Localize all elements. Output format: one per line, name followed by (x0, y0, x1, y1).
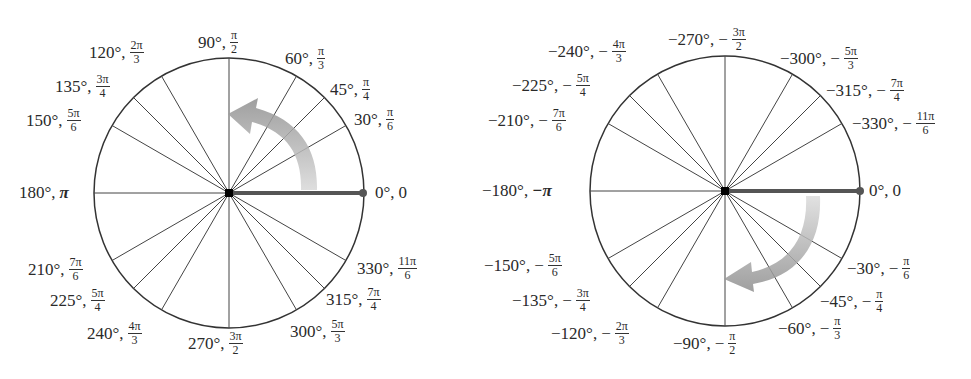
label-neg-180-deg: −180°,−π (482, 182, 552, 199)
label-225-deg: 225°, 5π4 (50, 287, 105, 313)
label-neg-315-deg: −315°,− 7π4 (826, 77, 904, 103)
right-center-dot (721, 187, 729, 195)
label-neg-210-deg: −210°,− 7π6 (488, 107, 566, 133)
label-neg-225-deg: −225°,− 5π4 (512, 72, 590, 98)
label-neg-0-deg: 0°,0 (869, 182, 901, 199)
label-neg-90-deg: −90°,− π2 (673, 330, 736, 356)
label-neg-120-deg: −120°,− 2π3 (551, 320, 629, 346)
label-neg-135-deg: −135°,− 3π4 (512, 287, 590, 313)
label-135-deg: 135°, 3π4 (55, 73, 110, 99)
label-30-deg: 30°, π6 (354, 106, 394, 132)
counterclockwise-arrow-icon (228, 98, 317, 190)
label-315-deg: 315°, 7π4 (326, 286, 381, 312)
label-0-deg: 0°,0 (375, 184, 407, 201)
label-neg-30-deg: −30°,− π6 (847, 255, 910, 281)
clockwise-arrow-icon (724, 196, 820, 292)
left-center-dot (225, 189, 233, 197)
label-45-deg: 45°, π4 (330, 76, 370, 102)
label-neg-270-deg: −270°,− 3π2 (668, 26, 746, 52)
label-180-deg: 180°,π (19, 184, 69, 201)
left-initial-point (359, 189, 367, 197)
label-neg-45-deg: −45°,− π4 (820, 288, 883, 314)
right-unit-circle (590, 56, 864, 326)
label-270-deg: 270°, 3π2 (188, 330, 243, 356)
right-initial-point (856, 187, 864, 195)
label-neg-300-deg: −300°,− 5π3 (780, 45, 858, 71)
label-neg-330-deg: −330°,− 11π6 (852, 110, 935, 136)
label-neg-150-deg: −150°,− 5π6 (484, 252, 562, 278)
label-330-deg: 330°, 11π6 (357, 255, 417, 281)
label-120-deg: 120°, 2π3 (89, 39, 144, 65)
label-60-deg: 60°, π3 (285, 45, 325, 71)
label-neg-60-deg: −60°,− π3 (778, 315, 841, 341)
label-240-deg: 240°, 4π3 (87, 320, 142, 346)
label-210-deg: 210°, 7π6 (28, 256, 83, 282)
label-150-deg: 150°, 5π6 (26, 107, 81, 133)
label-90-deg: 90°, π2 (198, 29, 238, 55)
label-neg-240-deg: −240°,− 4π3 (548, 38, 626, 64)
label-300-deg: 300°, 5π3 (290, 318, 345, 344)
